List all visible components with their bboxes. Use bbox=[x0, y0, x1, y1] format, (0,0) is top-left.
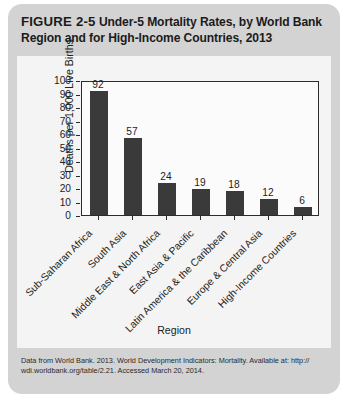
bar bbox=[158, 183, 176, 215]
y-tick-mark bbox=[76, 176, 80, 177]
y-tick-label: 30 bbox=[45, 171, 71, 181]
y-tick-label: 50 bbox=[45, 144, 71, 154]
bar bbox=[260, 199, 278, 215]
y-tick-label: 80 bbox=[45, 103, 71, 113]
y-tick-mark bbox=[76, 95, 80, 96]
bar-value-label: 57 bbox=[112, 126, 152, 137]
x-tick-mark bbox=[132, 216, 133, 220]
figure-card: FIGURE 2-5 Under-5 Mortality Rates, by W… bbox=[8, 4, 340, 394]
x-tick-mark bbox=[98, 216, 99, 220]
y-tick-mark bbox=[76, 108, 80, 109]
y-tick-label: 20 bbox=[45, 184, 71, 194]
x-axis-title: Region bbox=[17, 324, 331, 336]
y-tick-label: 0 bbox=[45, 211, 71, 221]
bar-value-label: 92 bbox=[78, 79, 118, 90]
y-tick-mark bbox=[76, 189, 80, 190]
bar bbox=[226, 191, 244, 215]
x-tick-mark bbox=[268, 216, 269, 220]
source-line-2: wdi.worldbank.org/table/2.21. Accessed M… bbox=[21, 366, 204, 375]
figure-number: FIGURE 2-5 bbox=[21, 14, 96, 29]
figure-source-note: Data from World Bank. 2013. World Develo… bbox=[21, 356, 327, 377]
y-tick-label: 60 bbox=[45, 130, 71, 140]
x-tick-mark bbox=[302, 216, 303, 220]
bar bbox=[90, 91, 108, 215]
y-tick-mark bbox=[76, 122, 80, 123]
x-tick-mark bbox=[234, 216, 235, 220]
y-tick-mark bbox=[76, 216, 80, 217]
y-tick-mark bbox=[76, 162, 80, 163]
bar bbox=[294, 207, 312, 215]
x-tick-mark bbox=[200, 216, 201, 220]
chart-plot-panel: Deaths per 1,000 Live Births 01020304050… bbox=[17, 56, 331, 348]
y-tick-label: 70 bbox=[45, 117, 71, 127]
y-tick-label: 40 bbox=[45, 157, 71, 167]
bar bbox=[124, 138, 142, 215]
bar-value-label: 6 bbox=[282, 195, 322, 206]
source-line-1: Data from World Bank. 2013. World Develo… bbox=[21, 356, 309, 365]
x-category-label: Sub-Saharan Africa bbox=[23, 228, 94, 299]
y-tick-label: 10 bbox=[45, 198, 71, 208]
y-tick-label: 100 bbox=[45, 76, 71, 86]
y-tick-label: 90 bbox=[45, 90, 71, 100]
bar bbox=[192, 189, 210, 215]
y-tick-mark bbox=[76, 203, 80, 204]
y-tick-mark bbox=[76, 149, 80, 150]
x-tick-mark bbox=[166, 216, 167, 220]
y-tick-mark bbox=[76, 135, 80, 136]
